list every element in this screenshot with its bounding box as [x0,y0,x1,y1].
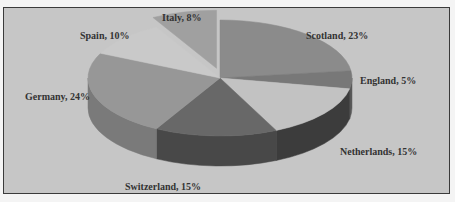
slice-label-spain: Spain, 10% [80,30,129,41]
slice-label-england: England, 5% [360,75,416,86]
slice-label-scotland: Scotland, 23% [306,30,368,41]
slice-label-netherlands: Netherlands, 15% [340,146,417,157]
slice-scotland [220,20,351,78]
slice-label-switzerland: Switzerland, 15% [125,181,201,192]
slice-label-italy: Italy, 8% [162,12,201,23]
slice-label-germany: Germany, 24% [25,91,90,102]
